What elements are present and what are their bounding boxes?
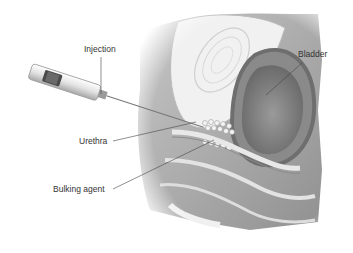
label-bulking-agent: Bulking agent	[53, 185, 105, 194]
label-injection: Injection	[84, 45, 116, 54]
label-urethra: Urethra	[79, 137, 107, 146]
anatomy-illustration: Injection Bladder Urethra Bulking agent	[0, 0, 353, 253]
syringe-barrel	[28, 63, 101, 100]
label-bladder: Bladder	[298, 50, 327, 59]
illustration-svg	[0, 0, 353, 253]
